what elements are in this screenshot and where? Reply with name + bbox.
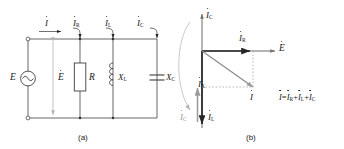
il-vector-label: IL [208,113,214,122]
label-total-current: I [45,19,48,28]
inductor-symbol [110,63,113,85]
inductor-label: XL [118,73,127,82]
node-l-top [112,38,115,41]
label-capacitor-current: IC [137,19,144,28]
i-resultant-label: I [250,93,253,102]
resistor-symbol [74,63,86,91]
i-resultant-line [202,51,253,87]
ic-vector-label: IC [180,113,187,122]
ac-source-symbol [21,71,36,86]
current-arrows [39,28,157,38]
terminal-top-left [26,37,30,41]
source-label: E [10,73,16,83]
e-axis-label: E [279,44,285,54]
node-r-bottom [79,117,82,120]
figure-root: I IR IL IC E E R XL XC (a) IC E IR IL IC… [0,0,344,149]
terminal-bottom-left [26,116,30,120]
label-resistor-current: IR [73,19,80,28]
ic-axis-label: IC [206,11,213,20]
resistor-label: R [89,73,95,83]
label-inductor-current: IL [105,19,111,28]
capacitor-label: XC [166,73,175,82]
node-r-top [79,38,82,41]
caption-b: (b) [246,133,256,142]
source-phasor-label: E [58,73,64,83]
phasor-equation: I=IR+IL+IC [279,93,315,102]
ir-vector-label: IR [239,34,246,43]
caption-a: (a) [78,133,88,142]
ix-vector-label: IX [198,80,205,89]
phasor-diagram [179,14,275,128]
ic-translation-arrow [179,22,190,110]
node-l-bottom [112,117,115,120]
